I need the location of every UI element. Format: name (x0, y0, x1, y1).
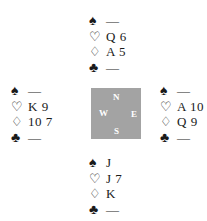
north-spades-row: ♠ — (89, 13, 127, 29)
east-clubs-row: ♣ — (160, 130, 204, 146)
west-spades-cards: — (28, 83, 42, 99)
south-diamonds-cards: K (106, 186, 116, 202)
heart-icon: ♡ (11, 99, 25, 115)
west-hearts-row: ♡ K 9 (11, 99, 53, 115)
diamond-icon: ♢ (89, 44, 103, 60)
heart-icon: ♡ (89, 29, 103, 45)
south-clubs-cards: — (106, 202, 120, 218)
east-clubs-cards: — (177, 130, 191, 146)
club-icon: ♣ (89, 60, 103, 76)
north-diamonds-row: ♢ A 5 (89, 44, 127, 60)
spade-icon: ♠ (11, 83, 25, 99)
compass-west: W (99, 108, 108, 118)
east-spades-cards: — (177, 83, 191, 99)
west-diamonds-cards: 10 7 (28, 114, 53, 130)
east-spades-row: ♠ — (160, 83, 204, 99)
club-icon: ♣ (89, 202, 103, 218)
spade-icon: ♠ (89, 155, 103, 171)
north-hearts-cards: Q 6 (106, 29, 127, 45)
south-diamonds-row: ♢ K (89, 186, 122, 202)
west-clubs-cards: — (28, 130, 42, 146)
north-clubs-cards: — (106, 60, 120, 76)
east-hearts-cards: A 10 (177, 99, 204, 115)
south-hand: ♠ J ♡ J 7 ♢ K ♣ — (89, 155, 122, 217)
north-hearts-row: ♡ Q 6 (89, 29, 127, 45)
north-spades-cards: — (106, 13, 120, 29)
south-hearts-row: ♡ J 7 (89, 171, 122, 187)
west-clubs-row: ♣ — (11, 130, 53, 146)
west-hearts-cards: K 9 (28, 99, 49, 115)
compass-east: E (131, 109, 137, 119)
compass-south: S (114, 126, 119, 136)
club-icon: ♣ (160, 130, 174, 146)
south-clubs-row: ♣ — (89, 202, 122, 218)
south-spades-row: ♠ J (89, 155, 122, 171)
south-hearts-cards: J 7 (106, 171, 122, 187)
spade-icon: ♠ (160, 83, 174, 99)
south-spades-cards: J (106, 155, 112, 171)
north-clubs-row: ♣ — (89, 60, 127, 76)
club-icon: ♣ (11, 130, 25, 146)
west-hand: ♠ — ♡ K 9 ♢ 10 7 ♣ — (11, 83, 53, 145)
north-hand: ♠ — ♡ Q 6 ♢ A 5 ♣ — (89, 13, 127, 75)
east-diamonds-cards: Q 9 (177, 114, 198, 130)
north-diamonds-cards: A 5 (106, 44, 126, 60)
diamond-icon: ♢ (11, 114, 25, 130)
east-hand: ♠ — ♡ A 10 ♢ Q 9 ♣ — (160, 83, 204, 145)
diamond-icon: ♢ (160, 114, 174, 130)
east-diamonds-row: ♢ Q 9 (160, 114, 204, 130)
spade-icon: ♠ (89, 13, 103, 29)
west-diamonds-row: ♢ 10 7 (11, 114, 53, 130)
east-hearts-row: ♡ A 10 (160, 99, 204, 115)
compass-north: N (113, 92, 120, 102)
compass-box: N W E S (91, 88, 141, 139)
heart-icon: ♡ (89, 171, 103, 187)
diamond-icon: ♢ (89, 186, 103, 202)
heart-icon: ♡ (160, 99, 174, 115)
west-spades-row: ♠ — (11, 83, 53, 99)
